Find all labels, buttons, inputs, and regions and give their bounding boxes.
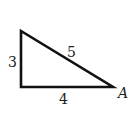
vertex-label-a: A — [116, 85, 128, 101]
side-label-horizontal: 4 — [59, 91, 68, 107]
side-label-hypotenuse: 5 — [67, 44, 76, 60]
triangle-diagram: 3 5 4 A — [0, 0, 138, 113]
side-label-vertical: 3 — [8, 54, 17, 70]
